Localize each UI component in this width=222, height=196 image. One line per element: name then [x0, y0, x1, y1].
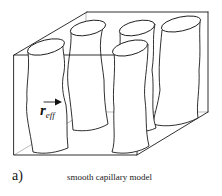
capillary-back-right: [153, 13, 202, 126]
r-eff-label: reff: [40, 102, 55, 119]
capillary-diagram: [0, 0, 222, 196]
figure-caption: smooth capillary model: [67, 172, 152, 182]
capillary-back-left: [68, 17, 108, 130]
panel-label: a): [12, 168, 23, 184]
eff-subscript: eff: [46, 110, 55, 120]
capillary-front-left: [26, 36, 68, 154]
capillary-front-right: [111, 37, 149, 153]
r-symbol: r: [40, 102, 46, 118]
